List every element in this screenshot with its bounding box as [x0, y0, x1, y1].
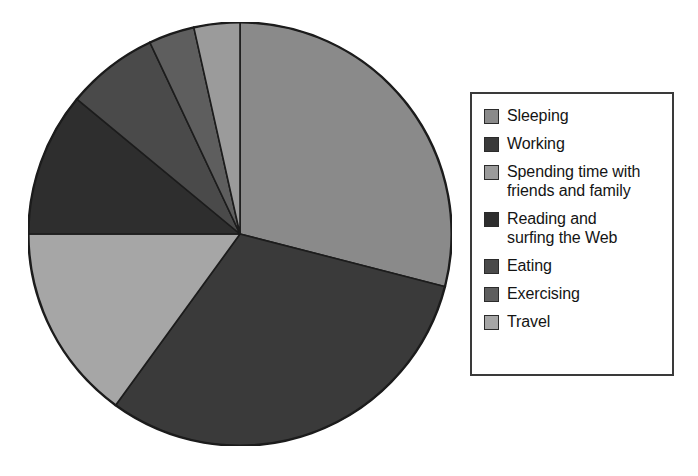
- legend-item-label: Exercising: [507, 284, 580, 303]
- legend-color-swatch: [484, 287, 499, 302]
- legend-item-list: SleepingWorkingSpending time with friend…: [484, 106, 662, 331]
- legend-item[interactable]: Working: [484, 134, 662, 153]
- legend-color-swatch: [484, 212, 499, 227]
- chart-legend: SleepingWorkingSpending time with friend…: [470, 92, 674, 376]
- pie-chart-area: [28, 22, 452, 446]
- legend-item-label: Working: [507, 134, 565, 153]
- legend-color-swatch: [484, 259, 499, 274]
- legend-color-swatch: [484, 315, 499, 330]
- legend-item-label: Reading and surfing the Web: [507, 209, 617, 247]
- legend-item[interactable]: Eating: [484, 256, 662, 275]
- legend-item[interactable]: Spending time with friends and family: [484, 162, 662, 200]
- legend-color-swatch: [484, 137, 499, 152]
- legend-item[interactable]: Reading and surfing the Web: [484, 209, 662, 247]
- legend-item[interactable]: Exercising: [484, 284, 662, 303]
- pie-slice-group: [28, 22, 452, 446]
- legend-item[interactable]: Travel: [484, 312, 662, 331]
- legend-item-label: Travel: [507, 312, 550, 331]
- pie-chart-svg: [28, 22, 452, 446]
- legend-color-swatch: [484, 165, 499, 180]
- legend-item-label: Spending time with friends and family: [507, 162, 640, 200]
- pie-chart-figure: SleepingWorkingSpending time with friend…: [0, 0, 698, 476]
- legend-item-label: Eating: [507, 256, 552, 275]
- legend-item[interactable]: Sleeping: [484, 106, 662, 125]
- legend-item-label: Sleeping: [507, 106, 568, 125]
- legend-color-swatch: [484, 109, 499, 124]
